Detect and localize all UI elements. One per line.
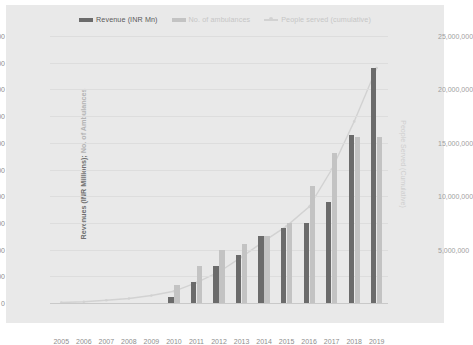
y-axis-right-tick: 20,000,000 (438, 86, 473, 93)
y-axis-left-tick: 3,500 (0, 113, 5, 120)
y-axis-left-tick: 500 (0, 273, 5, 280)
y-axis-left-tick: 4,500 (0, 59, 5, 66)
bar-revenue (258, 236, 263, 303)
y-axis-left-tick: 2,000 (0, 193, 5, 200)
legend-label-ambulances: No. of ambulances (189, 15, 251, 24)
legend-swatch-ambulances (172, 18, 186, 22)
bar-revenue (168, 297, 173, 303)
x-axis-tick: 2006 (76, 338, 92, 345)
x-axis-tick: 2019 (369, 338, 385, 345)
legend-item-ambulances: No. of ambulances (172, 15, 251, 24)
bar-revenue (213, 266, 218, 303)
x-axis-tick: 2007 (99, 338, 115, 345)
legend-label-revenue: Revenue (INR Mn) (96, 15, 158, 24)
bar-ambulances (377, 137, 382, 303)
line-point-people-served (353, 120, 356, 123)
gridline (50, 196, 388, 197)
bar-ambulances (242, 244, 247, 303)
x-axis-tick: 2014 (256, 338, 272, 345)
bar-revenue (349, 135, 354, 303)
y-axis-right-tick: 25,000,000 (438, 33, 473, 40)
bar-revenue (281, 228, 286, 303)
x-axis-tick: 2008 (121, 338, 137, 345)
bar-revenue (191, 282, 196, 303)
y-axis-left-tick: 1,500 (0, 219, 5, 226)
y-axis-left-tick: 3,000 (0, 139, 5, 146)
y-axis-right-tick: 15,000,000 (438, 139, 473, 146)
plot-area: 05001,0001,5002,0002,5003,0003,5004,0004… (50, 36, 388, 303)
gridline (50, 36, 388, 37)
x-axis-tick: 2013 (234, 338, 250, 345)
line-point-people-served (105, 299, 108, 302)
bar-revenue (236, 255, 241, 303)
x-axis-tick: 2016 (301, 338, 317, 345)
bar-ambulances (332, 153, 337, 303)
chart-legend: Revenue (INR Mn) No. of ambulances Peopl… (6, 15, 444, 24)
line-point-people-served (150, 294, 153, 297)
y-axis-left-tick: 1,000 (0, 246, 5, 253)
x-axis-tick: 2010 (166, 338, 182, 345)
x-axis-tick: 2009 (144, 338, 160, 345)
x-axis-tick: 2017 (324, 338, 340, 345)
gridline (50, 116, 388, 117)
bar-revenue (371, 68, 376, 303)
y-axis-left-tick: 4,000 (0, 86, 5, 93)
bar-revenue (304, 223, 309, 303)
bar-ambulances (264, 236, 269, 303)
gridline (50, 223, 388, 224)
x-axis-tick: 2005 (53, 338, 69, 345)
y-axis-right-title: People Served (Cumulative) (401, 120, 408, 208)
x-axis-tick: 2011 (189, 338, 204, 345)
y-axis-left-tick: 2,500 (0, 166, 5, 173)
y-axis-right-tick: 10,000,000 (438, 193, 473, 200)
chart-canvas: Revenue (INR Mn) No. of ambulances Peopl… (6, 5, 444, 323)
gridline (50, 63, 388, 64)
x-axis-tick: 2015 (279, 338, 295, 345)
gridline (50, 143, 388, 144)
gridline (50, 170, 388, 171)
bar-ambulances (355, 137, 360, 303)
legend-swatch-revenue (79, 18, 93, 22)
legend-label-people-served: People served (cumulative) (281, 15, 371, 24)
x-axis-tick: 2012 (211, 338, 227, 345)
bar-ambulances (174, 285, 179, 303)
gridline (50, 303, 388, 304)
legend-item-revenue: Revenue (INR Mn) (79, 15, 158, 24)
y-axis-left-tick: 5,000 (0, 33, 5, 40)
bar-ambulances (219, 250, 224, 303)
bar-ambulances (197, 266, 202, 303)
line-point-people-served (128, 297, 131, 300)
bar-revenue (326, 202, 331, 303)
y-axis-left-tick: 0 (1, 300, 5, 307)
bar-ambulances (287, 223, 292, 303)
x-axis-tick: 2018 (346, 338, 362, 345)
legend-swatch-people-served (264, 19, 278, 21)
legend-item-people-served: People served (cumulative) (264, 15, 371, 24)
bar-ambulances (310, 186, 315, 303)
y-axis-right-tick: 5,000,000 (438, 246, 469, 253)
gridline (50, 89, 388, 90)
